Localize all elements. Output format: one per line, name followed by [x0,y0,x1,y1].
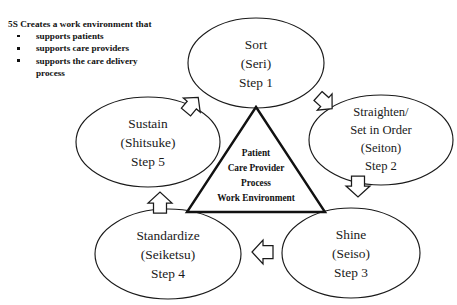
node-sustain-line-1: Sustain [128,116,168,131]
node-standardize-line-2: (Seiketsu) [141,247,195,262]
core-line-4: Work Environment [217,193,295,203]
node-shine[interactable]: Shine (Seiso) Step 3 [282,208,420,298]
arrow-shine-to-standardize-icon [252,240,273,264]
node-sort-line-3: Step 1 [239,75,273,90]
arrow-shine-to-standardize [252,240,273,264]
node-standardize-line-1: Standardize [136,228,199,243]
node-straighten-line-1: Straighten/ [353,105,409,119]
node-sort-line-2: (Seri) [241,56,272,71]
node-sustain-line-2: (Shitsuke) [120,135,175,150]
node-straighten-line-2: Set in Order [350,123,412,137]
core-line-1: Patient [242,148,271,158]
node-straighten-line-3: (Seiton) [361,141,402,155]
node-shine-line-3: Step 3 [334,265,368,280]
node-shine-line-1: Shine [336,227,367,242]
node-straighten-line-4: Step 2 [365,159,397,173]
core-line-2: Care Provider [228,163,285,173]
node-sustain-line-3: Step 5 [131,154,165,169]
core-line-3: Process [241,178,271,188]
node-standardize-line-3: Step 4 [151,266,185,281]
node-sort[interactable]: Sort (Seri) Step 1 [188,18,324,108]
five-s-cycle-diagram: Sort (Seri) Step 1 Straighten/ Set in Or… [0,0,457,305]
node-standardize[interactable]: Standardize (Seiketsu) Step 4 [95,209,241,299]
node-sort-line-1: Sort [245,37,268,52]
node-shine-line-2: (Seiso) [332,246,370,261]
diagram-canvas: 5S Creates a work environment that suppo… [0,0,457,305]
